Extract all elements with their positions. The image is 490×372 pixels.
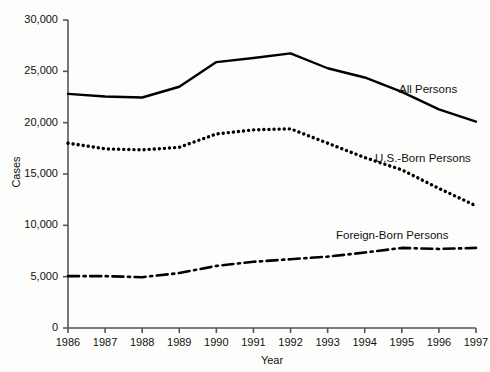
x-axis-title: Year — [242, 354, 302, 366]
y-axis-title: Cases — [10, 142, 22, 202]
series-line-u-s-born-persons — [68, 129, 476, 206]
y-axis-tick-label: 15,000 — [0, 167, 58, 179]
y-axis-tick-label: 10,000 — [0, 218, 58, 230]
y-axis-tick-label: 30,000 — [0, 13, 58, 25]
x-axis-tick-label: 1997 — [451, 336, 490, 348]
chart-container: 05,00010,00015,00020,00025,00030,000 198… — [0, 0, 490, 372]
series-line-foreign-born-persons — [68, 248, 476, 277]
series-label-foreign-born-persons: Foreign-Born Persons — [336, 229, 449, 241]
series-label-all-persons: All Persons — [399, 83, 457, 95]
series-label-us-born-persons: U.S.-Born Persons — [375, 152, 471, 164]
y-axis-tick-label: 5,000 — [0, 270, 58, 282]
y-axis-tick-label: 20,000 — [0, 116, 58, 128]
y-axis-tick-label: 25,000 — [0, 64, 58, 76]
chart-plot-area — [0, 0, 490, 372]
y-axis-tick-label: 0 — [0, 321, 58, 333]
